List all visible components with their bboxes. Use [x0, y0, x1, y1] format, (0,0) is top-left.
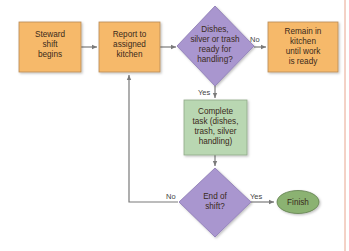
node-label: kitchen [290, 37, 316, 46]
node-steward-start: Steward shift begins [19, 22, 81, 72]
node-label: handling? [197, 55, 233, 64]
flowchart-canvas: Steward shift begins Report to assigned … [0, 0, 349, 251]
node-label: task (dishes, [193, 117, 239, 126]
node-label: Dishes, [201, 25, 228, 34]
edge-label-no-right: No [250, 35, 260, 44]
node-ready-decision: Dishes, silver or trash ready for handli… [177, 6, 254, 86]
node-label: until work [286, 47, 321, 56]
edge-label-yes-down: Yes [198, 88, 210, 97]
node-label: End of [203, 192, 227, 201]
node-report-kitchen: Report to assigned kitchen [99, 22, 160, 72]
edge-label-yes-right: Yes [250, 192, 262, 201]
node-label: is ready [289, 57, 319, 66]
node-label: silver or trash [190, 35, 240, 44]
node-label: Finish [287, 198, 309, 207]
node-label: assigned [113, 40, 146, 49]
node-label: trash, silver [195, 127, 237, 136]
node-label: Complete [198, 107, 233, 116]
node-label: kitchen [117, 50, 143, 59]
node-label: Report to [113, 30, 147, 39]
node-label: ready for [199, 45, 232, 54]
edge-label-no-left: No [166, 192, 176, 201]
node-label: handling) [199, 137, 233, 146]
node-label: shift? [205, 202, 225, 211]
node-label: begins [38, 50, 62, 59]
node-remain-kitchen: Remain in kitchen until work is ready [268, 22, 338, 72]
edge-end-to-report [129, 75, 178, 202]
node-end-decision: End of shift? [179, 168, 251, 237]
node-finish: Finish [277, 191, 319, 214]
node-label: Steward [35, 30, 65, 39]
node-complete-task: Complete task (dishes, trash, silver han… [184, 100, 247, 155]
node-label: Remain in [285, 27, 322, 36]
node-label: shift [42, 40, 58, 49]
